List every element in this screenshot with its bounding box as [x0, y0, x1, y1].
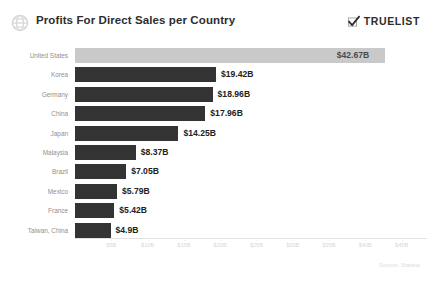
bar: [75, 203, 114, 218]
x-axis-tick-label: $10B: [141, 242, 154, 248]
x-axis-tick-mark: [184, 238, 185, 241]
x-axis-tick-mark: [256, 238, 257, 241]
x-axis-tick-mark: [402, 238, 403, 241]
x-axis-tick-mark: [293, 238, 294, 241]
bar-value-label: $19.42B: [221, 67, 254, 82]
x-axis-tick-label: $30B: [286, 242, 299, 248]
bar-value-label: $18.96B: [218, 87, 251, 102]
bar-chart-plot-area: United States$42.67BKorea$19.42BGermany$…: [0, 44, 432, 244]
bar-value-label: $17.96B: [210, 106, 243, 121]
category-label: Brazil: [0, 162, 68, 181]
bar-row: United States$42.67B: [0, 46, 432, 65]
category-label: Mexico: [0, 182, 68, 201]
source-note: Source: Statista: [379, 262, 420, 268]
category-label: Japan: [0, 124, 68, 143]
bar: [75, 87, 213, 102]
category-label: Korea: [0, 65, 68, 84]
bar-value-label: $5.79B: [122, 184, 150, 199]
x-axis-tick-label: $35B: [322, 242, 335, 248]
x-axis-tick-mark: [111, 238, 112, 241]
bar-value-label: $7.05B: [131, 164, 159, 179]
bar: [75, 145, 136, 160]
x-axis-tick-mark: [148, 238, 149, 241]
bar-row: Mexico$5.79B: [0, 182, 432, 201]
bar-row: Germany$18.96B: [0, 85, 432, 104]
bar-value-label: $8.37B: [141, 145, 169, 160]
bar: [75, 184, 117, 199]
bar: [75, 164, 126, 179]
truelist-wordmark: TRUELIST: [364, 15, 420, 27]
bar-row: France$5.42B: [0, 201, 432, 220]
bar-row: Korea$19.42B: [0, 65, 432, 84]
bar-row: Malaysia$8.37B: [0, 143, 432, 162]
category-label: China: [0, 104, 68, 123]
category-label: France: [0, 201, 68, 220]
x-axis-tick-mark: [365, 238, 366, 241]
category-label: Malaysia: [0, 143, 68, 162]
bar-value-label: $14.25B: [183, 126, 216, 141]
category-label: Taiwan, China: [0, 221, 68, 240]
x-axis-tick-label: $40B: [359, 242, 372, 248]
bar-value-label: $4.9B: [116, 223, 139, 238]
x-axis-tick-label: $5B: [106, 242, 116, 248]
bar-row: China$17.96B: [0, 104, 432, 123]
category-label: Germany: [0, 85, 68, 104]
bar: [75, 126, 178, 141]
x-axis-tick-mark: [220, 238, 221, 241]
x-axis-tick-label: $25B: [250, 242, 263, 248]
bar-value-label: $42.67B: [337, 48, 370, 63]
x-axis-line: [75, 238, 427, 239]
check-mark-icon: [347, 14, 360, 27]
globe-icon: [11, 14, 29, 32]
bar-value-label: $5.42B: [119, 203, 147, 218]
chart-screenshot: Profits For Direct Sales per Country TRU…: [0, 0, 432, 281]
chart-header: Profits For Direct Sales per Country TRU…: [0, 0, 432, 42]
bar-row: Taiwan, China$4.9B: [0, 221, 432, 240]
x-axis-tick-mark: [329, 238, 330, 241]
x-axis-tick-label: $15B: [177, 242, 190, 248]
bar: [75, 67, 216, 82]
x-axis-tick-label: $20B: [214, 242, 227, 248]
bar-row: Brazil$7.05B: [0, 162, 432, 181]
category-label: United States: [0, 46, 68, 65]
truelist-logo: TRUELIST: [347, 14, 420, 27]
bar: [75, 106, 205, 121]
bar: [75, 223, 111, 238]
bar-row: Japan$14.25B: [0, 124, 432, 143]
x-axis-tick-label: $45B: [395, 242, 408, 248]
page-title: Profits For Direct Sales per Country: [36, 14, 235, 26]
